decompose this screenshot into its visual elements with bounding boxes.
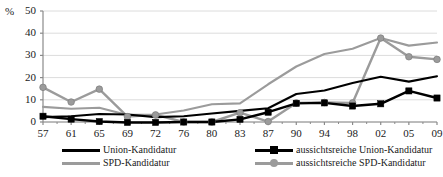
- data-point-marker: [152, 112, 159, 119]
- data-point-marker: [40, 113, 46, 119]
- legend-swatch-line-circle-icon: [255, 157, 293, 169]
- legend-swatch-line-square-icon: [255, 144, 293, 156]
- legend-label: Union-Kandidatur: [103, 144, 176, 156]
- data-point-marker: [321, 100, 327, 106]
- data-point-marker: [378, 101, 384, 107]
- data-point-marker: [349, 103, 355, 109]
- data-point-marker: [124, 113, 131, 120]
- data-point-marker: [96, 86, 103, 93]
- data-point-marker: [237, 109, 244, 116]
- data-point-marker: [96, 118, 102, 124]
- data-point-marker: [68, 116, 74, 122]
- legend-item-aussichtsreiche-spd-kandidatur[interactable]: aussichtsreiche SPD-Kandidatur: [255, 156, 426, 170]
- data-point-marker: [40, 84, 47, 91]
- data-point-marker: [237, 116, 243, 122]
- data-point-marker: [209, 119, 215, 125]
- data-point-marker: [406, 53, 413, 60]
- data-point-marker: [265, 118, 272, 125]
- data-point-marker: [152, 119, 158, 125]
- chart-legend: Union-Kandidatur SPD-Kandidatur aussicht…: [0, 141, 443, 171]
- legend-item-spd-kandidatur[interactable]: SPD-Kandidatur: [62, 156, 170, 170]
- legend-label: aussichtsreiche SPD-Kandidatur: [296, 157, 426, 169]
- legend-label: aussichtsreiche Union-Kandidatur: [296, 144, 432, 156]
- legend-item-aussichtsreiche-union-kandidatur[interactable]: aussichtsreiche Union-Kandidatur: [255, 143, 432, 157]
- legend-swatch-line-icon: [62, 144, 100, 156]
- chart-container: % 01020304050 57616569727680838790949802…: [0, 0, 443, 177]
- legend-label: SPD-Kandidatur: [103, 157, 170, 169]
- data-point-marker: [434, 56, 441, 63]
- data-point-marker: [293, 100, 299, 106]
- data-point-marker: [377, 35, 384, 42]
- data-point-marker: [181, 119, 187, 125]
- data-point-marker: [434, 95, 440, 101]
- data-point-marker: [406, 88, 412, 94]
- data-point-marker: [68, 99, 75, 106]
- data-point-marker: [265, 109, 271, 115]
- legend-item-union-kandidatur[interactable]: Union-Kandidatur: [62, 143, 176, 157]
- legend-swatch-line-icon: [62, 157, 100, 169]
- data-point-marker: [124, 119, 130, 125]
